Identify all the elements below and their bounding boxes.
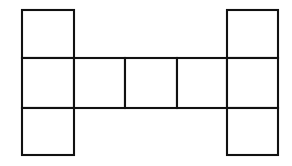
net-square-row2-col3	[125, 58, 177, 108]
figure-canvas	[0, 0, 292, 166]
net-square-row2-col5	[227, 58, 278, 108]
net-square-row2-col1	[22, 58, 74, 108]
net-square-row2-col4	[177, 58, 227, 108]
net-square-row1-col5	[227, 10, 278, 58]
net-square-row3-col5	[227, 108, 278, 155]
net-square-row3-col1	[22, 108, 74, 155]
net-square-row2-col2	[74, 58, 125, 108]
cube-net-diagram	[0, 0, 292, 166]
net-square-row1-col1	[22, 10, 74, 58]
